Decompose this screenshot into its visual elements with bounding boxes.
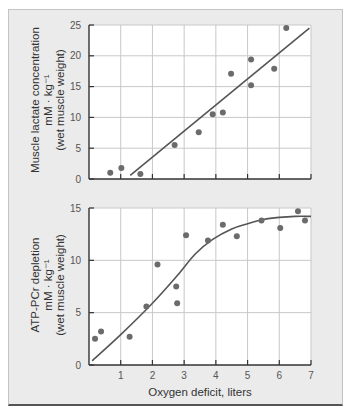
x-tick-label: 3 xyxy=(181,370,187,381)
y-axis-title-line: Muscle lactate concentration xyxy=(29,27,41,173)
data-point xyxy=(295,208,301,214)
x-axis-title: Oxygen deficit, liters xyxy=(148,386,252,398)
plot-area xyxy=(89,208,311,365)
data-point xyxy=(155,262,161,268)
lactate-chart: 0510152025 Muscle lactate concentrationm… xyxy=(29,20,311,185)
data-point xyxy=(174,300,180,306)
y-axis-title-line: mM · kg⁻¹ xyxy=(42,74,54,126)
y-tick-label: 15 xyxy=(70,81,82,92)
data-point xyxy=(137,171,143,177)
plot-area xyxy=(89,25,311,179)
y-axis-title: Muscle lactate concentrationmM · kg⁻¹(we… xyxy=(29,27,66,173)
y-tick-label: 15 xyxy=(70,203,82,214)
y-tick-label: 5 xyxy=(75,143,81,154)
data-point xyxy=(248,56,254,62)
y-axis-title-line: mM · kg⁻¹ xyxy=(42,259,54,311)
data-point xyxy=(220,222,226,228)
data-point xyxy=(259,218,265,224)
y-axis-title: ATP-PCr depletionmM · kg⁻¹(wet muscle we… xyxy=(29,234,66,336)
data-point xyxy=(210,111,216,117)
x-tick-label: 7 xyxy=(308,370,314,381)
data-point xyxy=(173,284,179,290)
data-point xyxy=(172,142,178,148)
y-tick-label: 25 xyxy=(70,20,82,31)
y-tick-label: 5 xyxy=(75,307,81,318)
data-point xyxy=(92,336,98,342)
data-point xyxy=(220,109,226,115)
y-axis-title-line: (wet muscle weight) xyxy=(54,49,66,151)
data-point xyxy=(283,25,289,31)
data-point xyxy=(118,165,124,171)
data-point xyxy=(127,334,133,340)
y-tick-label: 10 xyxy=(70,255,82,266)
data-point xyxy=(196,129,202,135)
y-tick-label: 20 xyxy=(70,50,82,61)
data-point xyxy=(302,218,308,224)
data-point xyxy=(271,66,277,72)
data-point xyxy=(107,170,113,176)
y-tick-labels: 0510152025 xyxy=(70,20,82,185)
data-point xyxy=(228,71,234,77)
y-tick-label: 10 xyxy=(70,112,82,123)
x-tick-label: 1 xyxy=(118,370,124,381)
y-tick-labels: 051015 xyxy=(70,203,82,371)
data-point xyxy=(248,82,254,88)
data-point xyxy=(98,329,104,335)
data-point xyxy=(277,225,283,231)
y-tick-label: 0 xyxy=(75,360,81,371)
y-axis-title-line: ATP-PCr depletion xyxy=(29,237,41,332)
x-tick-labels: 1234567 xyxy=(118,370,314,381)
atp-pcr-chart: 051015 1234567 ATP-PCr depletionmM · kg⁻… xyxy=(29,203,314,399)
figure: 0510152025 Muscle lactate concentrationm… xyxy=(0,0,350,414)
x-tick-label: 4 xyxy=(213,370,219,381)
data-point xyxy=(143,303,149,309)
x-tick-label: 5 xyxy=(245,370,251,381)
x-tick-label: 2 xyxy=(150,370,156,381)
data-point xyxy=(205,237,211,243)
data-point xyxy=(183,232,189,238)
y-tick-label: 0 xyxy=(75,174,81,185)
x-tick-label: 6 xyxy=(277,370,283,381)
data-point xyxy=(234,233,240,239)
y-axis-title-line: (wet muscle weight) xyxy=(54,234,66,336)
